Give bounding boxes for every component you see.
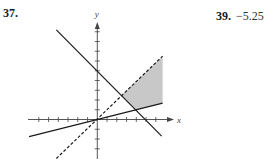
- x-axis-label: x: [176, 115, 181, 125]
- x-axis-arrow-icon: [167, 117, 174, 122]
- y-axis-label: y: [94, 9, 99, 19]
- region-graph: xy: [0, 0, 275, 166]
- y-axis-arrow-icon: [95, 22, 100, 29]
